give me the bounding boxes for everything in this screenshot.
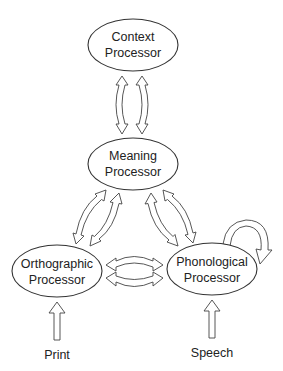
input-label-speech: Speech — [191, 346, 233, 360]
node-phonological-processor: Phonological Processor — [167, 243, 257, 295]
bidirectional-arrow-icon — [116, 76, 128, 134]
node-label-line2: Processor — [184, 271, 240, 285]
node-ellipse — [88, 19, 178, 71]
meaning-phonological-arrows — [145, 190, 196, 246]
bidirectional-arrow-icon — [136, 76, 148, 134]
node-ellipse — [167, 243, 257, 295]
print-input-arrow-icon — [49, 302, 65, 340]
node-label-line2: Processor — [105, 165, 161, 179]
node-label-line1: Orthographic — [21, 257, 93, 271]
node-label-line1: Phonological — [176, 255, 248, 269]
reading-model-diagram: Context Processor Meaning Processor Orth… — [0, 0, 283, 371]
node-label-line1: Meaning — [109, 149, 157, 163]
node-label-line2: Processor — [105, 46, 161, 60]
meaning-orthographic-arrows — [73, 190, 122, 246]
node-label-line2: Processor — [29, 273, 85, 287]
bidirectional-arrow-icon — [106, 257, 163, 272]
node-ellipse — [12, 245, 102, 297]
speech-input-arrow-icon — [204, 300, 220, 338]
node-context-processor: Context Processor — [88, 19, 178, 71]
node-orthographic-processor: Orthographic Processor — [12, 245, 102, 297]
node-label-line1: Context — [111, 30, 155, 44]
orthographic-phonological-arrows — [106, 257, 163, 287]
node-ellipse — [88, 138, 178, 190]
input-label-print: Print — [44, 348, 70, 362]
bidirectional-arrow-icon — [106, 272, 163, 287]
node-meaning-processor: Meaning Processor — [88, 138, 178, 190]
context-meaning-arrows — [116, 76, 148, 134]
